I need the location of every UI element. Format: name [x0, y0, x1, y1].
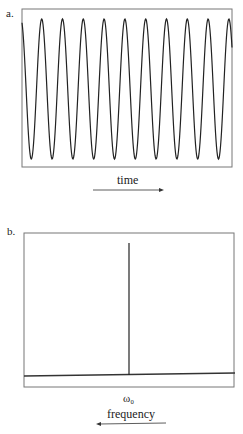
- frequency-arrow: [99, 423, 166, 424]
- omega-zero-label: ω₀: [123, 393, 134, 404]
- frequency-arrow-head: [96, 422, 101, 426]
- time-arrow-head: [159, 188, 164, 192]
- figure-canvas: [0, 0, 243, 434]
- time-axis-label: time: [117, 174, 138, 186]
- panel-a-label: a.: [6, 8, 14, 19]
- panel-b-label: b.: [7, 226, 15, 237]
- frequency-axis-label: frequency: [107, 408, 155, 420]
- time-signal-waveform: [22, 19, 232, 159]
